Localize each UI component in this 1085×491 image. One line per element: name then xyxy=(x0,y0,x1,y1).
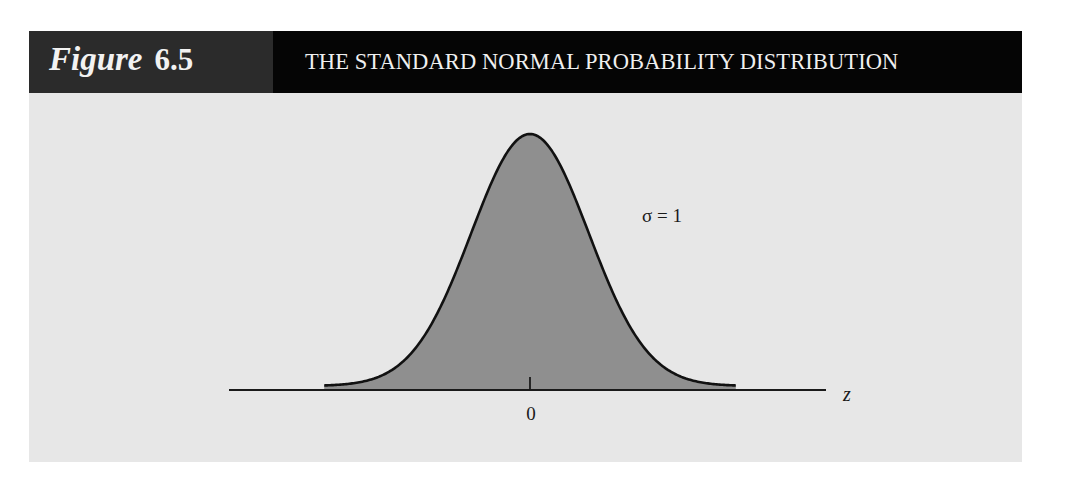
curve-area xyxy=(324,134,736,390)
sigma-annotation: σ = 1 xyxy=(642,205,682,226)
normal-distribution-chart: 0 z σ = 1 xyxy=(0,0,1085,491)
axis-label-z: z xyxy=(842,383,851,405)
tick-label-zero: 0 xyxy=(526,403,536,424)
